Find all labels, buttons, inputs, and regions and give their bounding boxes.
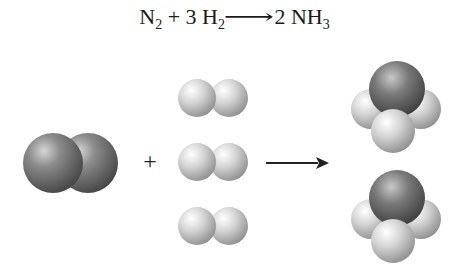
h2-molecule [178,79,248,117]
h2-molecule [178,143,248,181]
nitrogen-atom [369,170,425,226]
reaction-arrow-graphic [266,157,329,169]
h2-molecule [178,207,248,245]
nitrogen-atom [23,133,83,193]
hydrogen-atom [178,207,216,245]
n2-molecule [23,133,118,193]
molecule-diagram [0,0,469,275]
plus-sign-diagram: + [140,148,160,175]
nh3-molecule [351,170,441,263]
hydrogen-atom [371,219,415,263]
nitrogen-atom [369,61,425,117]
hydrogen-atom [371,109,415,153]
nh3-molecule [351,61,441,153]
hydrogen-atom [178,143,216,181]
hydrogen-atom [178,79,216,117]
